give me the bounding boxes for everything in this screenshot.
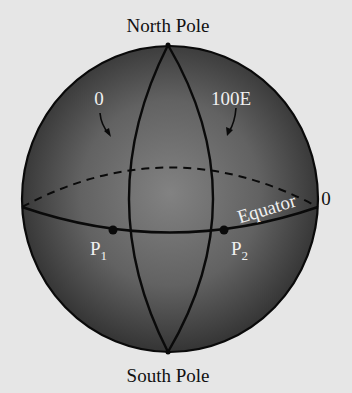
point-p2	[220, 226, 229, 235]
meridian-100e-label: 100E	[211, 88, 251, 109]
north-pole-label: North Pole	[127, 15, 210, 36]
equator-latitude-label: 0	[321, 188, 331, 209]
south-pole-point	[166, 350, 171, 355]
globe-diagram: North Pole South Pole 0 0 100E Equator P…	[0, 0, 352, 393]
south-pole-label: South Pole	[127, 365, 210, 386]
meridian-0-label: 0	[94, 88, 104, 109]
point-p1	[109, 226, 118, 235]
north-pole-point	[166, 43, 171, 48]
